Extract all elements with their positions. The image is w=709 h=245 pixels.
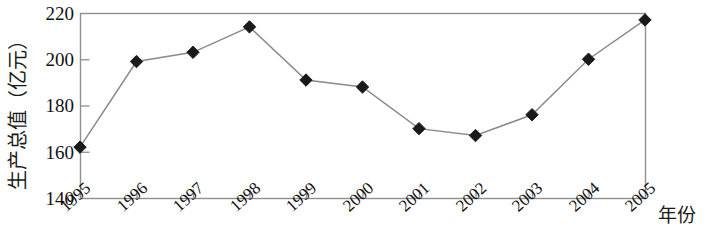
x-tick-label: 2002 <box>453 162 510 216</box>
x-tick-label: 2004 <box>566 162 623 216</box>
x-tick-label: 1997 <box>170 162 227 216</box>
x-tick-label: 1995 <box>57 162 114 216</box>
line-chart: 生产总值（亿元） 220 200 180 160 140 19951996199… <box>0 0 709 245</box>
x-tick-label: 1999 <box>283 162 340 216</box>
x-tick-label: 2003 <box>509 162 566 216</box>
x-axis-tick-labels: 1995199619971998199920002001200220032004… <box>0 0 709 245</box>
x-tick-label: 2000 <box>340 162 397 216</box>
x-axis-title: 年份 <box>658 206 696 226</box>
x-tick-label: 2001 <box>396 162 453 216</box>
x-tick-label: 1998 <box>227 162 284 216</box>
x-tick-label: 1996 <box>114 162 171 216</box>
